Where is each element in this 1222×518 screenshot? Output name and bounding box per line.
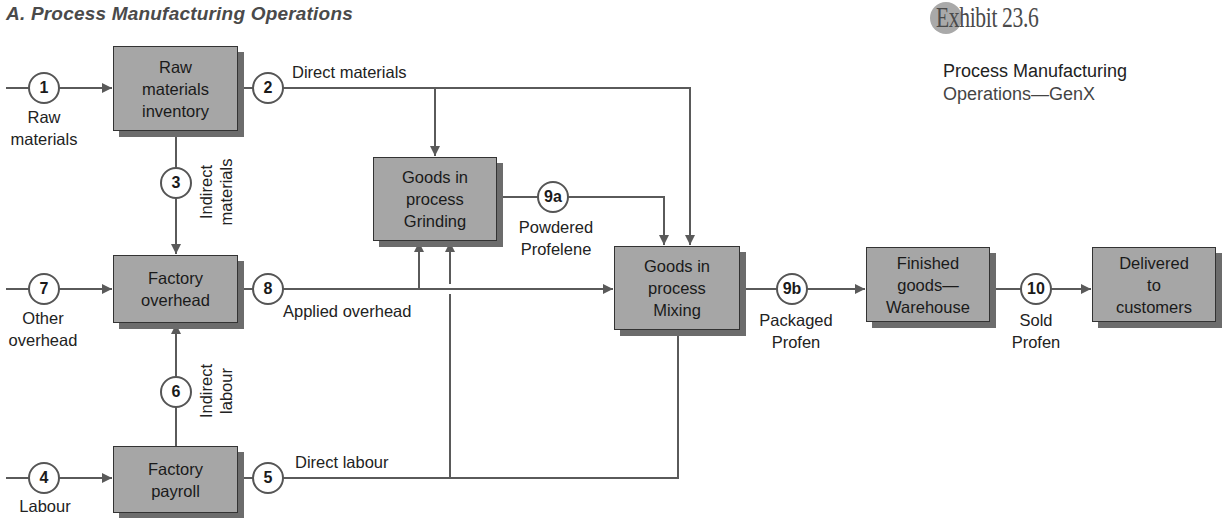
step-6-marker: 6	[160, 376, 192, 408]
factory-overhead-box: Factoryoverhead	[113, 255, 238, 323]
step-1-marker: 1	[28, 72, 60, 104]
delivered-to-customers-box: Deliveredtocustomers	[1092, 247, 1216, 322]
goods-in-process-mixing-box: Goods inprocessMixing	[614, 246, 740, 330]
step-7-marker: 7	[28, 273, 60, 305]
indirect-labour-label: Indirectlabour	[196, 351, 236, 431]
step-8-marker: 8	[252, 273, 284, 305]
raw-materials-label: Rawmaterials	[4, 106, 84, 150]
step-9b-marker: 9b	[776, 273, 808, 305]
direct-labour-label: Direct labour	[295, 451, 389, 473]
step-4-marker: 4	[28, 462, 60, 494]
step-2-marker: 2	[252, 72, 284, 104]
packaged-profen-label: PackagedProfen	[750, 309, 842, 353]
raw-materials-inventory-box: Rawmaterialsinventory	[113, 46, 238, 131]
applied-overhead-label: Applied overhead	[283, 300, 411, 322]
step-3-marker: 3	[160, 167, 192, 199]
direct-materials-label: Direct materials	[292, 61, 407, 83]
sold-profen-label: SoldProfen	[1006, 309, 1066, 353]
labour-label: Labour	[10, 495, 80, 517]
indirect-materials-label: Indirectmaterials	[196, 152, 236, 232]
finished-goods-warehouse-box: Finishedgoods—Warehouse	[866, 247, 990, 322]
step-9a-marker: 9a	[537, 181, 569, 213]
factory-payroll-box: Factorypayroll	[113, 446, 238, 513]
powdered-profelene-label: PowderedProfelene	[508, 216, 604, 260]
step-10-marker: 10	[1020, 273, 1052, 305]
step-5-marker: 5	[252, 462, 284, 494]
other-overhead-label: Otheroverhead	[0, 307, 86, 351]
goods-in-process-grinding-box: Goods inprocessGrinding	[373, 157, 497, 241]
